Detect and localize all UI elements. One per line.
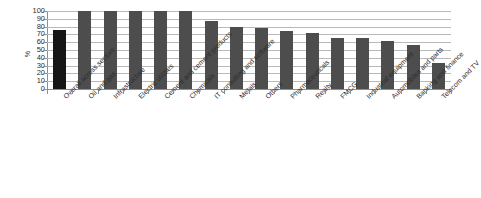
y-axis-tick-mark: [43, 81, 47, 82]
y-axis-tick-mark: [43, 66, 47, 67]
bar-slot: [356, 11, 369, 89]
x-axis-tick-mark: [98, 90, 99, 94]
x-axis-tick-mark: [375, 90, 376, 94]
y-axis-tick-label: 100: [5, 7, 45, 15]
bar[interactable]: [53, 30, 66, 89]
y-axis-tick-mark: [43, 11, 47, 12]
x-axis-tick-mark: [401, 90, 402, 94]
y-axis-tick-label: 20: [5, 69, 45, 77]
y-axis-tick-mark: [43, 73, 47, 74]
y-axis-tick-mark: [43, 42, 47, 43]
y-axis-tick-label: 80: [5, 23, 45, 31]
x-axis-tick-mark: [426, 90, 427, 94]
x-axis-tick-mark: [123, 90, 124, 94]
bar[interactable]: [331, 38, 344, 89]
x-axis-tick-mark: [148, 90, 149, 94]
x-axis-tick-mark: [199, 90, 200, 94]
y-axis-tick-label: 30: [5, 62, 45, 70]
y-axis-tick-label: 40: [5, 54, 45, 62]
x-axis-tick-mark: [47, 90, 48, 94]
bar-slot: [280, 11, 293, 89]
y-axis-tick-label: 60: [5, 38, 45, 46]
y-axis-tick-label: 10: [5, 77, 45, 85]
y-axis-tick-labels: 0102030405060708090100: [0, 0, 45, 198]
x-axis-tick-mark: [451, 90, 452, 94]
bar-slot: [53, 11, 66, 89]
y-axis-tick-label: 50: [5, 46, 45, 54]
y-axis-tick-label: 0: [5, 85, 45, 93]
bar-slot: [331, 11, 344, 89]
y-axis-tick-mark: [43, 34, 47, 35]
x-axis-tick-mark: [350, 90, 351, 94]
y-axis-tick-mark: [43, 27, 47, 28]
x-axis-tick-mark: [325, 90, 326, 94]
x-axis-tick-mark: [72, 90, 73, 94]
y-axis-tick-label: 70: [5, 30, 45, 38]
y-axis-tick-mark: [43, 19, 47, 20]
bar[interactable]: [280, 31, 293, 90]
x-axis-tick-mark: [173, 90, 174, 94]
x-axis-tick-mark: [224, 90, 225, 94]
y-axis-tick-mark: [43, 58, 47, 59]
y-axis-tick-label: 90: [5, 15, 45, 23]
y-axis-tick-mark: [43, 50, 47, 51]
x-axis-tick-mark: [249, 90, 250, 94]
x-axis-tick-mark: [300, 90, 301, 94]
x-axis-tick-mark: [274, 90, 275, 94]
bar[interactable]: [356, 38, 369, 89]
